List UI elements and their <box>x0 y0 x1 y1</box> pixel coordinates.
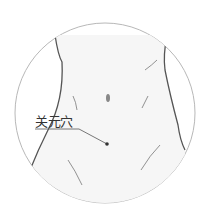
acupoint-illustration: 关元穴 <box>0 0 210 221</box>
abdomen-drawing <box>0 0 210 221</box>
navel <box>106 94 110 102</box>
acupoint-label: 关元穴 <box>35 114 73 129</box>
acupoint-dot <box>105 142 109 146</box>
